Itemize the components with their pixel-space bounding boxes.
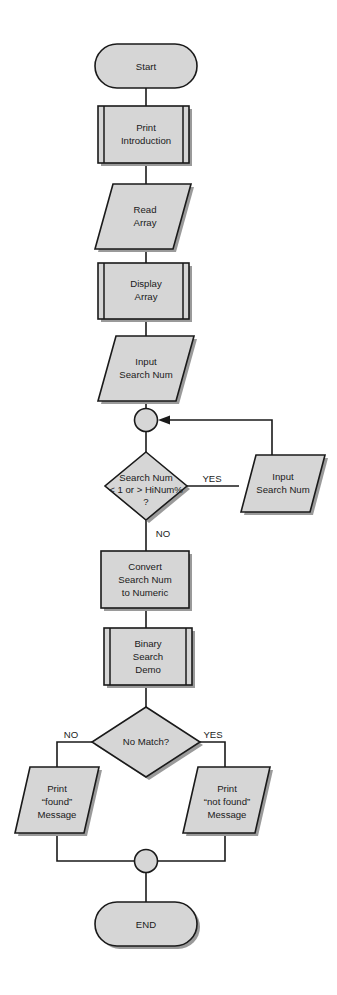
end-label: END <box>136 919 156 930</box>
branch-label-validate-no: NO <box>156 528 170 539</box>
flowchart-canvas: Start Print Introduction Read Array Disp… <box>0 0 337 995</box>
flowchart-svg: Start Print Introduction Read Array Disp… <box>0 0 337 995</box>
node-print-not-found[interactable]: Print “not found” Message <box>183 767 273 836</box>
print-not-found-label-line2: “not found” <box>204 796 250 807</box>
branch-label-validate-yes: YES <box>202 473 221 484</box>
node-convert-search-num[interactable]: Convert Search Num to Numeric <box>101 551 192 611</box>
binary-search-demo-label-line1: Binary <box>134 638 161 649</box>
node-end[interactable]: END <box>95 902 200 949</box>
edge-print-found-to-connector <box>57 833 134 861</box>
input-search-num-label-line2: Search Num <box>119 369 172 380</box>
print-not-found-label-line1: Print <box>217 783 237 794</box>
edge-no-match-no-to-print-found <box>57 742 92 767</box>
node-start[interactable]: Start <box>95 44 197 88</box>
edge-no-match-yes-to-print-not-found <box>200 742 225 767</box>
print-introduction-label-line2: Introduction <box>121 135 171 146</box>
convert-search-num-label-line1: Convert <box>128 561 162 572</box>
connector-top-circle <box>135 409 158 432</box>
input-search-num-retry-label-line1: Input <box>272 471 294 482</box>
edge-print-not-found-to-connector <box>158 833 225 861</box>
input-search-num-retry-label-line2: Search Num <box>256 484 309 495</box>
branch-label-match-no: NO <box>64 729 78 740</box>
convert-search-num-label-line2: Search Num <box>118 574 171 585</box>
node-connector-bottom[interactable] <box>135 850 158 873</box>
node-display-array[interactable]: Display Array <box>98 263 192 322</box>
start-label: Start <box>136 61 157 72</box>
binary-search-demo-label-line3: Demo <box>135 664 161 675</box>
convert-search-num-label-line3: to Numeric <box>122 587 169 598</box>
binary-search-demo-label-line2: Search <box>133 651 163 662</box>
read-array-label-line1: Read <box>134 204 157 215</box>
node-print-introduction[interactable]: Print Introduction <box>98 106 192 166</box>
display-array-label-line1: Display <box>130 278 162 289</box>
node-no-match-decision[interactable]: No Match? <box>92 707 203 780</box>
edge-retry-loopback <box>162 420 272 455</box>
validate-decision-label-line3: ? <box>143 496 148 507</box>
input-search-num-label-line1: Input <box>135 356 157 367</box>
no-match-decision-label: No Match? <box>123 736 169 747</box>
print-found-label-line1: Print <box>47 783 67 794</box>
print-not-found-label-line3: Message <box>208 809 247 820</box>
validate-decision-label-line2: < 1 or > HiNum% <box>109 484 183 495</box>
node-validate-decision[interactable]: Search Num < 1 or > HiNum% ? <box>105 452 190 523</box>
node-input-search-num-retry[interactable]: Input Search Num <box>241 455 328 515</box>
validate-decision-label-line1: Search Num <box>119 472 172 483</box>
branch-label-match-yes: YES <box>203 729 222 740</box>
read-array-label-line2: Array <box>134 217 157 228</box>
connector-bottom-circle <box>135 850 158 873</box>
print-introduction-label-line1: Print <box>136 122 156 133</box>
node-read-array[interactable]: Read Array <box>95 184 194 252</box>
node-binary-search-demo[interactable]: Binary Search Demo <box>104 628 195 688</box>
display-array-label-line2: Array <box>135 291 158 302</box>
node-input-search-num[interactable]: Input Search Num <box>98 336 197 404</box>
node-connector-top[interactable] <box>135 409 158 432</box>
print-found-label-line2: “found” <box>42 796 72 807</box>
print-found-label-line3: Message <box>38 809 77 820</box>
node-print-found[interactable]: Print “found” Message <box>15 767 102 836</box>
loopback-arrowhead <box>158 416 170 425</box>
